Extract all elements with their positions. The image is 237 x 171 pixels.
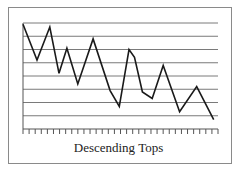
price-line	[23, 24, 214, 119]
chart-caption: Descending Tops	[0, 140, 237, 156]
